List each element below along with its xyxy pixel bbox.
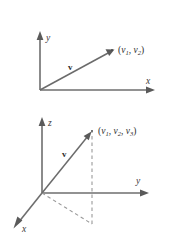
vector-v-3d bbox=[42, 132, 92, 194]
coord-close-paren-2d: ) bbox=[141, 45, 144, 56]
axis-label-x-2d: x bbox=[145, 76, 151, 86]
x-axis-3d bbox=[14, 193, 43, 229]
axis-label-y-3d: y bbox=[135, 176, 141, 186]
vector-tip-point-2d bbox=[111, 49, 113, 51]
coordinate-label-2d: (v1, v2) bbox=[118, 45, 144, 56]
y-axis-3d bbox=[42, 190, 149, 197]
vector-label-v-3d: v bbox=[62, 149, 67, 159]
vector-label-v-2d: v bbox=[68, 62, 73, 72]
z-axis-3d bbox=[39, 117, 46, 193]
x-axis-2d bbox=[40, 87, 155, 94]
coord-close-paren-3d: ) bbox=[133, 126, 136, 137]
three-dimensional-vector-diagram: z y x v (v1, v2, v3) bbox=[0, 110, 170, 234]
y-axis-2d bbox=[37, 31, 44, 90]
two-dimensional-vector-diagram: y x v (v1, v2) bbox=[0, 0, 170, 110]
coordinate-label-3d: (v1, v2, v3) bbox=[98, 126, 136, 137]
vector-figure: y x v (v1, v2) bbox=[0, 0, 170, 234]
axis-label-y-2d: y bbox=[45, 33, 51, 43]
vector-v-2d bbox=[40, 49, 115, 90]
axis-label-x-3d: x bbox=[21, 224, 27, 234]
projection-dashes-3d bbox=[42, 132, 92, 224]
vector-tip-point-3d bbox=[91, 130, 93, 132]
axis-label-z-3d: z bbox=[47, 118, 52, 128]
